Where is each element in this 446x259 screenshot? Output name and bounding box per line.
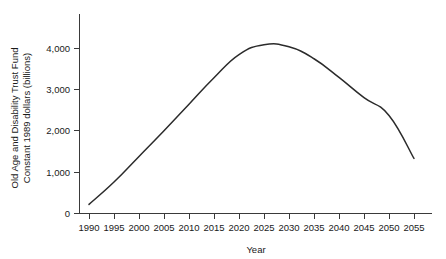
x-tick-label: 2000 [128,222,149,233]
series-group [89,44,414,205]
x-tick-label: 2020 [228,222,249,233]
x-axis-ticks: 1990199520002005201020152020202520302035… [78,214,424,234]
y-tick-label: 3,000 [46,84,70,95]
trust-fund-line-series [89,44,414,205]
y-tick-label: 4,000 [46,43,70,54]
x-axis-title: Year [246,244,265,255]
x-tick-label: 2005 [153,222,174,233]
x-tick-label: 2045 [353,222,374,233]
x-tick-label: 2010 [178,222,199,233]
x-tick-label: 1990 [78,222,99,233]
y-axis-ticks: 01,0002,0003,0004,000 [46,43,79,220]
x-tick-label: 2015 [203,222,224,233]
y-tick-label: 0 [65,208,70,219]
x-tick-label: 1995 [103,222,124,233]
x-tick-label: 2040 [328,222,349,233]
line-chart-canvas: 01,0002,0003,0004,000 199019952000200520… [0,0,446,259]
x-tick-label: 2035 [303,222,324,233]
y-axis-title-line2: Constant 1989 dollars (billions) [21,53,32,183]
y-tick-label: 1,000 [46,167,70,178]
y-axis-group: 01,0002,0003,0004,000 [46,14,79,219]
x-tick-label: 2055 [403,222,424,233]
y-axis-title: Old Age and Disability Trust Fund Consta… [9,48,32,189]
chart-figure: 01,0002,0003,0004,000 199019952000200520… [0,0,446,259]
x-tick-label: 2050 [378,222,399,233]
x-axis-group: 1990199520002005201020152020202520302035… [78,214,432,234]
y-tick-label: 2,000 [46,125,70,136]
x-tick-label: 2030 [278,222,299,233]
x-tick-label: 2025 [253,222,274,233]
y-axis-title-line1: Old Age and Disability Trust Fund [9,48,20,189]
